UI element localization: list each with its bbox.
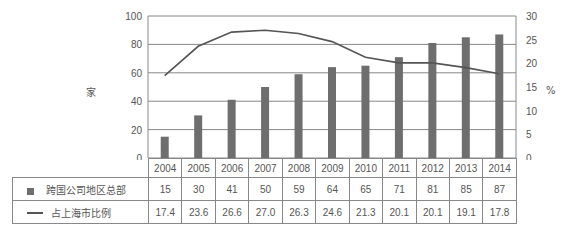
data-table: 2004200520062007200820092010201120122013… xyxy=(12,158,517,224)
table-line-value: 20.1 xyxy=(383,201,416,224)
left-tick-label: 60 xyxy=(131,68,143,79)
bar xyxy=(428,43,436,158)
table-line-value: 26.3 xyxy=(282,201,315,224)
bar xyxy=(161,137,169,158)
table-year-cell: 2011 xyxy=(383,159,416,178)
left-tick-label: 100 xyxy=(125,11,142,22)
line-swatch-icon xyxy=(27,212,43,214)
legend-line-label: 占上海市比例 xyxy=(51,208,111,219)
bar xyxy=(328,67,336,158)
table-header-row: 2004200520062007200820092010201120122013… xyxy=(13,159,517,178)
bar xyxy=(495,34,503,158)
table-bar-value: 15 xyxy=(149,178,182,201)
legend-bar: 跨国公司地区总部 xyxy=(13,178,149,201)
right-axis-ticks: 051015202530 xyxy=(526,11,538,160)
right-tick-label: 15 xyxy=(526,82,538,93)
bar xyxy=(395,57,403,158)
bar xyxy=(261,87,269,158)
table-line-value: 21.3 xyxy=(349,201,382,224)
chart-plot: 020406080100 051015202530 家 % xyxy=(0,0,562,160)
table-corner xyxy=(13,159,149,178)
table-year-cell: 2010 xyxy=(349,159,382,178)
right-tick-label: 25 xyxy=(526,35,538,46)
right-tick-label: 20 xyxy=(526,58,538,69)
table-bar-value: 50 xyxy=(249,178,282,201)
left-axis-unit: 家 xyxy=(86,86,96,98)
right-tick-label: 0 xyxy=(526,153,532,160)
left-tick-label: 20 xyxy=(131,125,143,136)
left-tick-label: 80 xyxy=(131,39,143,50)
right-tick-label: 5 xyxy=(526,129,532,140)
table-line-value: 17.4 xyxy=(149,201,182,224)
table-year-cell: 2005 xyxy=(182,159,215,178)
table-year-cell: 2014 xyxy=(483,159,516,178)
right-tick-label: 30 xyxy=(526,11,538,22)
bar-swatch-icon xyxy=(27,188,34,195)
table-year-cell: 2004 xyxy=(149,159,182,178)
table-year-cell: 2009 xyxy=(316,159,349,178)
table-bar-value: 87 xyxy=(483,178,516,201)
legend-bar-label: 跨国公司地区总部 xyxy=(46,185,126,196)
table-year-cell: 2007 xyxy=(249,159,282,178)
table-bar-value: 81 xyxy=(416,178,449,201)
table-line-value: 26.6 xyxy=(215,201,248,224)
table-year-cell: 2012 xyxy=(416,159,449,178)
table-line-value: 27.0 xyxy=(249,201,282,224)
table-bar-value: 71 xyxy=(383,178,416,201)
table-bar-value: 59 xyxy=(282,178,315,201)
bar-series xyxy=(161,34,504,158)
table-line-value: 20.1 xyxy=(416,201,449,224)
right-axis-unit: % xyxy=(546,85,556,96)
table-bar-value: 30 xyxy=(182,178,215,201)
bar xyxy=(295,74,303,158)
table-row-bar-series: 跨国公司地区总部 1530415059646571818587 xyxy=(13,178,517,201)
table-year-cell: 2008 xyxy=(282,159,315,178)
legend-line: 占上海市比例 xyxy=(13,201,149,224)
table-year-cell: 2013 xyxy=(449,159,482,178)
table-year-cell: 2006 xyxy=(215,159,248,178)
bar xyxy=(194,115,202,158)
bar xyxy=(361,66,369,158)
table-row-line-series: 占上海市比例 17.423.626.627.026.324.621.320.12… xyxy=(13,201,517,224)
table-line-value: 24.6 xyxy=(316,201,349,224)
table-bar-value: 64 xyxy=(316,178,349,201)
table-bar-value: 65 xyxy=(349,178,382,201)
bar xyxy=(228,100,236,158)
left-tick-label: 40 xyxy=(131,96,143,107)
table-bar-value: 41 xyxy=(215,178,248,201)
left-axis-ticks: 020406080100 xyxy=(125,11,142,160)
table-bar-value: 85 xyxy=(449,178,482,201)
bar xyxy=(462,37,470,158)
right-tick-label: 10 xyxy=(526,106,538,117)
table-line-value: 23.6 xyxy=(182,201,215,224)
table-line-value: 17.8 xyxy=(483,201,516,224)
table-line-value: 19.1 xyxy=(449,201,482,224)
